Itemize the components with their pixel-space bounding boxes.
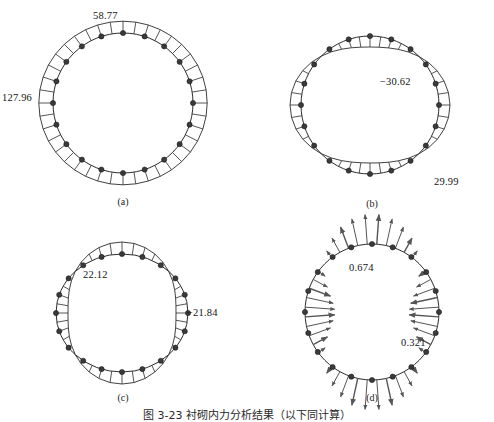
figure-caption: 图 3-23 衬砌内力分析结果（以下同计算） [0,406,494,422]
diagram-tick [185,65,197,71]
ring-node [390,245,395,250]
ring-node [81,263,86,268]
ring-node [436,309,441,314]
ring-node [424,269,429,274]
force-arrow [332,372,340,386]
ring-node [187,122,192,127]
ring-node [306,330,311,335]
ring-node [140,367,145,372]
diagram-tick [64,152,73,161]
ring-node [346,168,351,173]
force-arrow [307,321,334,327]
ring-node [408,47,413,52]
diagram-tick [291,93,301,95]
panel-a [39,21,207,185]
ring-node [298,102,303,107]
diagram-tick [176,304,187,306]
ring-node [158,358,163,363]
force-arrow [352,219,358,246]
ring-node [50,100,55,105]
ring-node [315,269,320,274]
force-arrow [404,372,412,386]
panel-c-value-label: 22.12 [83,269,108,280]
ring-node [302,124,307,129]
panel-c-value-label: −21.84 [187,307,218,318]
panel-b-ring-outline [301,36,439,174]
ring-node [79,157,84,162]
ring-node [162,157,167,162]
ring-node [158,263,163,268]
ring-node [312,143,317,148]
diagram-tick [438,93,448,95]
diagram-tick [152,366,155,372]
force-arrow [395,227,403,248]
ring-node [423,62,428,67]
ring-node [53,310,58,315]
diagram-tick [292,116,302,118]
ring-node [173,276,178,281]
diagram-tick [110,371,112,382]
panel-a-value-label: 58.77 [93,10,118,21]
diagram-tick [63,336,69,339]
ring-node [433,124,438,129]
diagram-envelope [39,21,207,185]
panel-a-ring-outline [53,33,193,173]
ring-node [187,79,192,84]
ring-node [120,170,125,175]
diagram-tick [64,44,73,53]
ring-node [119,251,124,256]
ring-node [99,167,104,172]
diagram-tick [185,135,197,141]
ring-node [120,30,125,35]
force-arrow [305,307,335,309]
diagram-tick [110,22,112,34]
panel-letter-a: (a) [103,196,143,207]
ring-node [367,33,372,38]
diagram-tick [86,30,92,41]
ring-node [369,241,374,246]
diagram-tick [152,254,155,260]
ring-node [330,254,335,259]
force-arrow [411,321,438,327]
diagram-tick [155,165,161,176]
ring-node [423,143,428,148]
ring-node [369,377,374,382]
ring-node [327,158,332,163]
force-arrow [386,219,392,246]
diagram-tick [40,90,54,92]
diagram-tick [134,22,136,34]
ring-node [99,254,104,259]
diagram-tick [192,90,206,92]
diagram-tick [303,71,309,74]
diagram-tick [155,30,161,41]
panel-b [290,33,450,176]
ring-node [433,288,438,293]
force-arrow [365,215,367,245]
force-arrow [409,315,439,317]
ring-node [142,167,147,172]
diagram-tick [303,136,309,139]
panel-c [53,242,190,384]
diagram-tick [379,37,381,47]
ring-node [119,369,124,374]
force-arrow [395,376,403,397]
ring-node [99,34,104,39]
diagram-tick [175,336,181,339]
ring-node [81,358,86,363]
ring-node [433,81,438,86]
diagram-tick [175,286,181,289]
diagram-tick [172,44,181,53]
diagram-tick [398,161,401,167]
diagram-tick [438,116,448,118]
diagram-tick [57,320,68,322]
ring-node [182,329,187,334]
diagram-tick [89,366,92,372]
diagram-tick [431,136,437,139]
ring-node [367,171,372,176]
diagram-tick [192,114,206,116]
ring-node [409,254,414,259]
ring-node [433,330,438,335]
diagram-tick [359,163,361,173]
